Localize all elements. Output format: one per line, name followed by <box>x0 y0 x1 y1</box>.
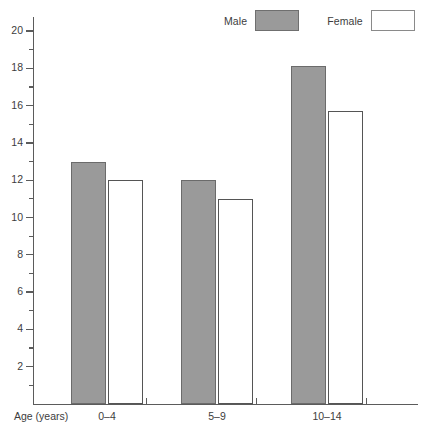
y-tick-major <box>26 366 34 367</box>
x-axis-line <box>33 404 418 405</box>
y-tick-minor <box>29 236 35 237</box>
x-label-0: 0–4 <box>67 410 147 422</box>
legend-item-female: Female <box>327 10 415 31</box>
bar-chart: Male Female 2468101214161820 0–45–910–14… <box>0 0 422 434</box>
x-tick <box>366 398 367 405</box>
y-tick-major <box>26 329 34 330</box>
y-tick-major <box>26 180 34 181</box>
y-tick-label: 4 <box>0 322 23 334</box>
y-tick-label: 20 <box>0 24 23 36</box>
y-tick-label: 2 <box>0 360 23 372</box>
y-tick-minor <box>29 198 35 199</box>
legend-label-male: Male <box>224 15 247 27</box>
bar-male-0 <box>71 162 106 404</box>
legend-spacer <box>299 20 327 21</box>
legend-item-male: Male <box>224 10 299 31</box>
chart-legend: Male Female <box>224 10 415 31</box>
y-tick-major <box>26 217 34 218</box>
y-tick-minor <box>29 124 35 125</box>
y-tick-label: 10 <box>0 211 23 223</box>
legend-swatch-male <box>255 10 299 31</box>
y-tick-minor <box>29 347 35 348</box>
y-tick-label: 6 <box>0 285 23 297</box>
y-tick-label: 8 <box>0 248 23 260</box>
y-tick-major <box>26 254 34 255</box>
y-tick-minor <box>29 385 35 386</box>
bar-female-1 <box>218 199 253 404</box>
y-tick-major <box>26 291 34 292</box>
y-tick-minor <box>29 273 35 274</box>
y-tick-minor <box>29 310 35 311</box>
y-tick-major <box>26 68 34 69</box>
y-tick-major <box>26 30 34 31</box>
x-axis-caption: Age (years) <box>14 410 68 422</box>
y-tick-label: 16 <box>0 99 23 111</box>
y-tick-label: 14 <box>0 136 23 148</box>
y-tick-label: 12 <box>0 173 23 185</box>
x-tick <box>146 398 147 405</box>
bar-male-1 <box>181 180 216 404</box>
y-tick-major <box>26 105 34 106</box>
bar-female-2 <box>328 111 363 404</box>
x-tick <box>256 398 257 405</box>
y-tick-minor <box>29 49 35 50</box>
y-tick-label: 18 <box>0 61 23 73</box>
bar-female-0 <box>108 180 143 404</box>
y-tick-minor <box>29 161 35 162</box>
legend-swatch-female <box>371 10 415 31</box>
y-tick-major <box>26 142 34 143</box>
legend-label-female: Female <box>327 15 363 27</box>
bar-male-2 <box>291 66 326 404</box>
y-tick-minor <box>29 86 35 87</box>
x-label-2: 10–14 <box>287 410 367 422</box>
x-label-1: 5–9 <box>177 410 257 422</box>
